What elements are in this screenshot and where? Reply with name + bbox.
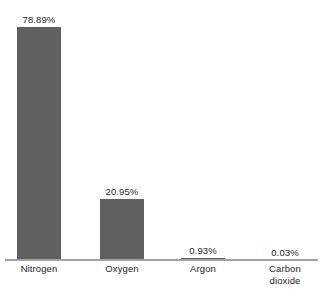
bar-group-carbon-dioxide: 0.03%: [246, 0, 324, 261]
plot-area: 78.89% 20.95% 0.93% 0.03%: [0, 0, 333, 261]
category-label-line: Nitrogen: [0, 263, 78, 275]
category-label-line: Carbon: [246, 263, 324, 275]
category-label-text: Argon: [164, 263, 242, 275]
category-label-argon: Argon: [164, 263, 242, 275]
x-axis-baseline: [5, 259, 318, 261]
bar-group-argon: 0.93%: [164, 0, 242, 261]
category-label-line: Oxygen: [83, 263, 161, 275]
bar-value-label: 78.89%: [23, 14, 56, 25]
bar-oxygen[interactable]: [100, 199, 144, 261]
bar-nitrogen[interactable]: [17, 27, 61, 261]
category-label-line: Argon: [164, 263, 242, 275]
bar-value-label: 0.93%: [189, 245, 216, 256]
x-axis-category-labels: Nitrogen Oxygen Argon Carbondioxide: [0, 263, 333, 297]
bar-chart: 78.89% 20.95% 0.93% 0.03%: [0, 0, 333, 297]
category-label-text: Oxygen: [83, 263, 161, 275]
category-label-oxygen: Oxygen: [83, 263, 161, 275]
bar-group-oxygen: 20.95%: [83, 0, 161, 261]
category-label-nitrogen: Nitrogen: [0, 263, 78, 275]
category-label-text: Carbondioxide: [246, 263, 324, 287]
bar-group-nitrogen: 78.89%: [0, 0, 78, 261]
bar-value-label: 20.95%: [106, 186, 139, 197]
category-label-line: dioxide: [246, 275, 324, 287]
category-label-text: Nitrogen: [0, 263, 78, 275]
bar-value-label: 0.03%: [271, 247, 298, 258]
category-label-carbon-dioxide: Carbondioxide: [246, 263, 324, 287]
